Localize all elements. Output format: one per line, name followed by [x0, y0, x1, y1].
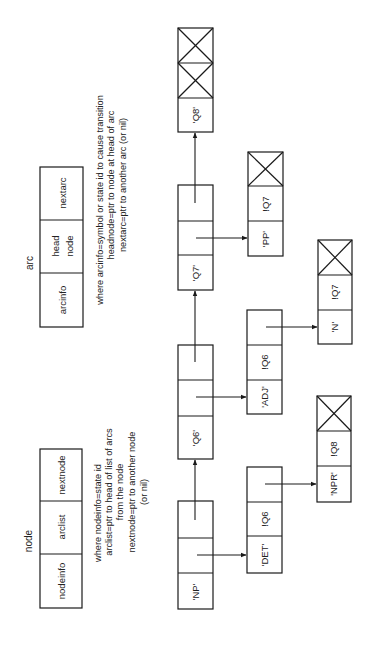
node-q8-info: 'Q8'	[190, 107, 201, 123]
arc-npr-info: 'NPR'	[328, 472, 339, 496]
arc-npr-head: !Q8	[328, 441, 339, 456]
arc-det-head: !Q6	[259, 511, 270, 526]
arc-note-line-3: nextarc=ptr to another arc (or nil)	[118, 118, 128, 252]
arc-legend: arc arcinfo head node nextarc where arci…	[24, 95, 128, 327]
arc-n-info: 'N'	[329, 322, 340, 333]
arc-adj-info: 'ADJ'	[259, 386, 270, 408]
arc-field-nextarc: nextarc	[57, 177, 68, 208]
node-field-arclist: arclist	[56, 514, 67, 539]
arc-legend-title: arc	[24, 256, 35, 270]
arc-field-arcinfo: arcinfo	[57, 286, 68, 315]
node-field-nodeinfo: nodeinfo	[56, 563, 67, 599]
arc-note-line-2: headnode=ptr to node at head of arc	[106, 110, 116, 259]
node-q6-info: 'Q6'	[190, 430, 201, 446]
arc-pp-head: !Q7	[260, 196, 271, 211]
node-np-info: 'NP'	[190, 583, 201, 600]
arc-det: 'DET' !Q6	[247, 467, 282, 573]
node-q6: 'Q6'	[178, 345, 213, 459]
arc-field-head: head	[50, 235, 61, 256]
arc-det-info: 'DET'	[259, 544, 270, 567]
node-field-nextnode: nextnode	[56, 455, 67, 494]
node-note-line-4: nextnode=ptr to another node	[127, 432, 137, 553]
node-note-line-3: from the node	[115, 464, 125, 521]
linked-list-diagram: node nodeinfo arclist nextnode where nod…	[0, 0, 371, 657]
arc-pp: 'PP' !Q7	[248, 152, 283, 256]
arc-adj-head: !Q6	[259, 354, 270, 369]
node-q8: 'Q8'	[178, 28, 213, 132]
arc-n: 'N' !Q7	[318, 240, 352, 344]
node-legend: node nodeinfo arclist nextnode where nod…	[23, 428, 149, 608]
node-note-line-5: (or nil)	[139, 479, 149, 505]
arc-npr: 'NPR' !Q8	[317, 396, 351, 502]
arc-n-head: !Q7	[329, 284, 340, 299]
arc-field-node: node	[64, 235, 75, 256]
arc-adj: 'ADJ' !Q6	[247, 310, 282, 414]
arc-pp-info: 'PP'	[260, 231, 271, 247]
node-q7-info: 'Q7'	[190, 265, 201, 281]
arc-note-line-1: where arcinfo=symbol or state id to caus…	[95, 95, 105, 306]
node-note-line-1: where nodeinfo=state id	[93, 464, 103, 563]
node-legend-title: node	[23, 529, 34, 552]
node-note-line-2: arclist=ptr to head of list of arcs	[104, 428, 114, 556]
